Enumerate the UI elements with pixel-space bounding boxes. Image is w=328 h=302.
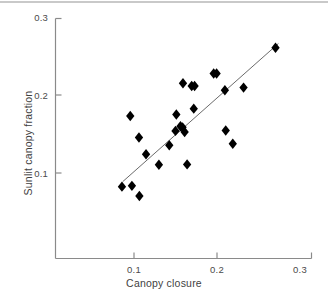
trendline: [123, 44, 279, 182]
data-point-22: [229, 139, 237, 149]
x-tick-label-2: 0.3: [293, 264, 307, 275]
y-tick-label-2: 0.3: [18, 12, 48, 23]
data-point-3: [135, 191, 143, 201]
data-point-6: [155, 160, 163, 170]
scatter-plot-canvas: [0, 0, 328, 302]
data-point-1: [128, 181, 136, 191]
data-points: [118, 43, 280, 202]
data-point-13: [179, 78, 187, 88]
regression-line: [123, 44, 279, 182]
data-point-14: [183, 159, 191, 169]
y-axis-title: Sunlit canopy fraction: [22, 53, 34, 233]
x-axis-title: Canopy closure: [0, 277, 328, 289]
data-point-21: [222, 125, 230, 135]
data-point-0: [118, 181, 126, 191]
x-tick-label-0: 0.1: [127, 264, 141, 275]
data-point-23: [239, 82, 247, 92]
x-tick-label-1: 0.2: [210, 264, 224, 275]
data-point-2: [126, 111, 134, 121]
data-point-17: [190, 103, 198, 113]
plot-axes: [56, 19, 312, 259]
data-point-7: [165, 140, 173, 150]
chart-figure: 0.1 0.2 0.3 0.1 0.2 0.3 Canopy closure S…: [0, 0, 328, 302]
data-point-8: [172, 109, 180, 119]
data-point-4: [135, 132, 143, 142]
